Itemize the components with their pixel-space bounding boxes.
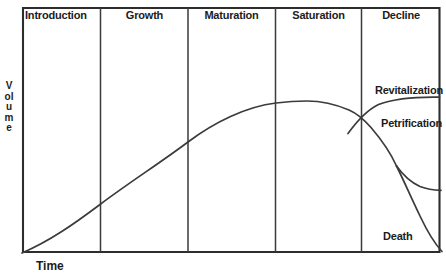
branch-label-death: Death xyxy=(383,230,413,242)
y-axis-label-volume: Volume xyxy=(3,81,15,134)
lifecycle-curve xyxy=(22,101,397,253)
phase-label-introduction: Introduction xyxy=(23,9,103,22)
branch-label-petrification: Petrification xyxy=(372,117,442,129)
diagram-canvas xyxy=(0,0,446,280)
phase-label-maturation: Maturation xyxy=(188,9,275,22)
branch-label-revitalization: Revitalization xyxy=(356,84,443,96)
lifecycle-diagram: Introduction Growth Maturation Saturatio… xyxy=(0,0,446,280)
x-axis-label-time: Time xyxy=(36,259,64,273)
phase-label-saturation: Saturation xyxy=(275,9,362,22)
phase-label-growth: Growth xyxy=(101,9,188,22)
phase-divider-lines xyxy=(101,8,362,252)
phase-label-decline: Decline xyxy=(362,9,440,22)
